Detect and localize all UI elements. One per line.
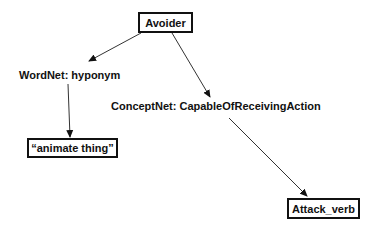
relation-wordnet-hyponym: WordNet: hyponym bbox=[19, 69, 120, 81]
relation-conceptnet-capable-of-receiving-action: ConceptNet: CapableOfReceivingAction bbox=[111, 100, 321, 112]
edge-avoider-to-conceptnet bbox=[172, 33, 210, 97]
node-avoider: Avoider bbox=[138, 12, 193, 33]
node-animate-thing: “animate thing” bbox=[27, 138, 118, 158]
edge-avoider-to-wordnet bbox=[89, 33, 141, 61]
relation-wordnet-label: WordNet: hyponym bbox=[19, 69, 120, 81]
diagram-canvas: Avoider WordNet: hyponym ConceptNet: Cap… bbox=[0, 0, 376, 232]
node-animate-thing-label: “animate thing” bbox=[31, 142, 114, 154]
edge-conceptnet-to-attack-verb bbox=[229, 118, 307, 196]
edge-wordnet-to-animate-thing bbox=[68, 84, 70, 137]
node-attack-verb: Attack_verb bbox=[287, 198, 360, 219]
node-avoider-label: Avoider bbox=[145, 17, 186, 29]
node-attack-verb-label: Attack_verb bbox=[292, 203, 355, 215]
relation-conceptnet-label: ConceptNet: CapableOfReceivingAction bbox=[111, 100, 321, 112]
